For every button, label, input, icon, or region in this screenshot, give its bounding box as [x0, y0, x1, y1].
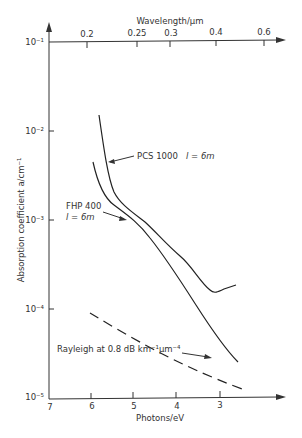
pcs-leader-arrow-icon	[108, 159, 115, 164]
rayleigh-leader-arrow-icon	[204, 354, 212, 359]
pcs-1000-curve	[99, 115, 236, 292]
x-axis	[49, 397, 280, 399]
rayleigh-leader	[182, 353, 208, 357]
fhp-label: FHP 400	[66, 201, 101, 211]
y-tick-label: 10⁻²	[25, 126, 44, 136]
x2-tick-label: 0.25	[128, 28, 147, 38]
x-tick-label: 6	[89, 401, 94, 411]
y-axis-label: Absorption coefficient a/cm⁻¹	[16, 158, 26, 283]
x-tick-label: 4	[174, 401, 179, 411]
rayleigh-label: Rayleigh at 0.8 dB km⁻¹µm⁻⁴	[57, 344, 181, 354]
x2-tick-label: 0.3	[164, 28, 178, 38]
x-tick-label: 5	[131, 401, 136, 411]
x2-axis-label: Wavelength/µm	[137, 16, 204, 26]
x-axis-arrow-icon	[276, 394, 286, 400]
fhp-leader-arrow-icon	[119, 216, 127, 221]
fhp-400-curve	[93, 162, 238, 362]
x2-axis	[49, 40, 280, 42]
x2-tick-label: 0.2	[80, 29, 94, 39]
y-tick-label: 10⁻¹	[25, 37, 44, 47]
y-axis-arrow-icon	[46, 22, 52, 32]
y-ticks	[49, 131, 54, 309]
fhp-length-label: l = 6m	[66, 212, 95, 222]
x-tick-label: 3	[217, 400, 222, 410]
y-tick-label: 10⁻³	[25, 215, 44, 225]
x-axis-label: Photons/eV	[136, 413, 184, 423]
absorption-chart: 10⁻¹ 10⁻² 10⁻³ 10⁻⁴ 10⁻⁵ 7 6 5 4 3 Photo…	[0, 0, 302, 438]
y-tick-label: 10⁻⁴	[25, 304, 44, 314]
x2-tick-label: 0.6	[257, 27, 271, 37]
pcs-label: PCS 1000	[137, 151, 178, 161]
x2-axis-arrow-icon	[276, 37, 286, 43]
pcs-length-label: l = 6m	[186, 151, 215, 161]
x2-tick-label: 0.4	[209, 27, 223, 37]
y-tick-label: 10⁻⁵	[25, 392, 44, 402]
x-tick-label: 7	[47, 402, 52, 412]
